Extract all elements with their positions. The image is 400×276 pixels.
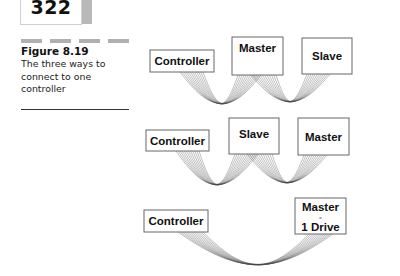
master-box: Master <box>298 118 349 155</box>
device-label: Slave <box>239 128 269 140</box>
device-label: Master <box>305 131 343 143</box>
ide-connection-diagram: Controller Master Slave Controller Slave… <box>0 0 400 276</box>
cables <box>176 72 333 265</box>
slave-box: Slave <box>302 38 352 74</box>
master-or-drive-box: Master or 1 Drive <box>295 198 346 234</box>
controller-box: Controller <box>150 50 214 72</box>
device-label: Master <box>239 42 277 54</box>
row-2: Controller Slave Master <box>146 118 349 155</box>
device-sublabel: or <box>319 216 322 220</box>
row-1: Controller Master Slave <box>150 37 352 75</box>
controller-box: Controller <box>146 130 209 151</box>
master-box: Master <box>232 37 283 75</box>
device-label-2: 1 Drive <box>301 221 339 233</box>
device-label: Controller <box>150 135 205 147</box>
controller-box: Controller <box>144 210 208 232</box>
row-3: Controller Master or 1 Drive <box>144 198 346 234</box>
slave-box: Slave <box>229 118 279 154</box>
device-label: Slave <box>312 50 342 62</box>
device-label: Master <box>302 201 340 213</box>
device-label: Controller <box>149 215 204 227</box>
device-label: Controller <box>155 55 210 67</box>
